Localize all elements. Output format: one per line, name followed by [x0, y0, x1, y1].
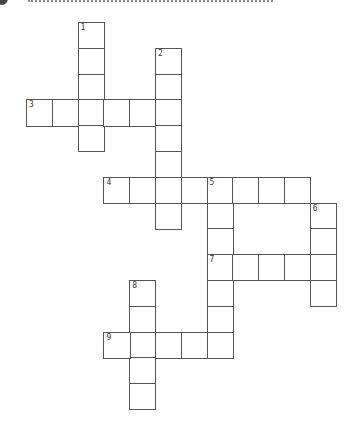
crossword-cell[interactable]	[155, 125, 182, 152]
crossword-cell[interactable]	[258, 254, 285, 281]
crossword-cell[interactable]	[232, 254, 259, 281]
crossword-cell[interactable]	[207, 203, 234, 230]
crossword-cell[interactable]	[155, 151, 182, 178]
crossword-cell[interactable]	[78, 99, 105, 126]
clue-number: 7	[210, 255, 215, 264]
crossword-cell[interactable]	[78, 125, 105, 152]
crossword-cell[interactable]: 3	[26, 99, 53, 126]
clue-number: 6	[313, 204, 318, 213]
crossword-grid: 123457689	[0, 0, 359, 446]
clue-number: 9	[106, 333, 111, 342]
clue-number: 3	[29, 100, 34, 109]
clue-number: 5	[210, 178, 215, 187]
clue-number: 2	[158, 49, 163, 58]
crossword-cell[interactable]	[52, 99, 79, 126]
crossword-cell[interactable]	[129, 357, 156, 384]
crossword-cell[interactable]	[310, 280, 337, 307]
crossword-cell[interactable]: 6	[310, 203, 337, 230]
crossword-cell[interactable]	[155, 99, 182, 126]
crossword-cell[interactable]	[155, 74, 182, 101]
crossword-cell[interactable]: 2	[155, 48, 182, 75]
crossword-cell[interactable]	[207, 228, 234, 255]
crossword-cell[interactable]	[78, 48, 105, 75]
crossword-cell[interactable]	[155, 177, 182, 204]
crossword-cell[interactable]	[284, 177, 311, 204]
clue-number: 1	[81, 23, 86, 32]
crossword-cell[interactable]	[129, 332, 156, 359]
crossword-cell[interactable]	[232, 177, 259, 204]
crossword-cell[interactable]: 8	[129, 280, 156, 307]
clue-number: 8	[132, 281, 137, 290]
crossword-cell[interactable]: 9	[103, 332, 130, 359]
crossword-cell[interactable]	[129, 177, 156, 204]
crossword-cell[interactable]	[103, 99, 130, 126]
crossword-cell[interactable]	[129, 306, 156, 333]
crossword-cell[interactable]	[284, 254, 311, 281]
crossword-cell[interactable]	[310, 254, 337, 281]
crossword-cell[interactable]: 7	[207, 254, 234, 281]
crossword-cell[interactable]	[181, 177, 208, 204]
crossword-cell[interactable]	[207, 306, 234, 333]
crossword-cell[interactable]	[78, 74, 105, 101]
crossword-cell[interactable]	[310, 228, 337, 255]
crossword-cell[interactable]	[181, 332, 208, 359]
crossword-cell[interactable]	[258, 177, 285, 204]
crossword-cell[interactable]	[207, 280, 234, 307]
crossword-cell[interactable]	[155, 332, 182, 359]
crossword-cell[interactable]	[129, 99, 156, 126]
crossword-cell[interactable]: 5	[207, 177, 234, 204]
crossword-cell[interactable]	[207, 332, 234, 359]
crossword-cell[interactable]	[155, 203, 182, 230]
crossword-cell[interactable]: 1	[78, 22, 105, 49]
crossword-cell[interactable]	[129, 383, 156, 410]
clue-number: 4	[106, 178, 111, 187]
crossword-cell[interactable]: 4	[103, 177, 130, 204]
